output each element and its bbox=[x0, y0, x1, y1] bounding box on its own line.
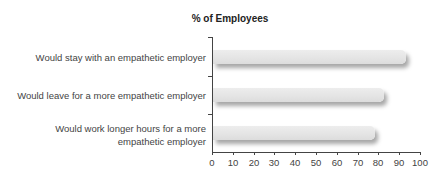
category-label: Would leave for a more empathetic employ… bbox=[6, 89, 206, 102]
x-axis-tick bbox=[337, 152, 338, 155]
x-axis-tick-label: 100 bbox=[408, 157, 432, 168]
category-label: Would work longer hours for a more empat… bbox=[6, 122, 206, 148]
x-axis-tick bbox=[358, 152, 359, 155]
chart-title-text: % of Employees bbox=[192, 13, 269, 24]
bar bbox=[213, 50, 406, 64]
x-axis-tick bbox=[316, 152, 317, 155]
x-axis-tick bbox=[420, 152, 421, 155]
category-label: Would stay with an empathetic employer bbox=[6, 51, 206, 64]
x-axis-tick bbox=[295, 152, 296, 155]
bar bbox=[213, 88, 384, 102]
y-axis-tick bbox=[208, 76, 212, 77]
category-label-line: Would work longer hours for a more bbox=[6, 122, 206, 135]
bar bbox=[213, 126, 375, 140]
x-axis-tick bbox=[233, 152, 234, 155]
x-axis-tick bbox=[212, 152, 213, 155]
y-axis-tick bbox=[208, 114, 212, 115]
y-axis-tick bbox=[208, 37, 212, 38]
chart-title: % of Employees bbox=[0, 13, 444, 24]
x-axis-tick bbox=[378, 152, 379, 155]
x-axis-tick bbox=[399, 152, 400, 155]
x-axis-tick bbox=[254, 152, 255, 155]
category-label-line: empathetic employer bbox=[6, 135, 206, 148]
x-axis-tick bbox=[274, 152, 275, 155]
